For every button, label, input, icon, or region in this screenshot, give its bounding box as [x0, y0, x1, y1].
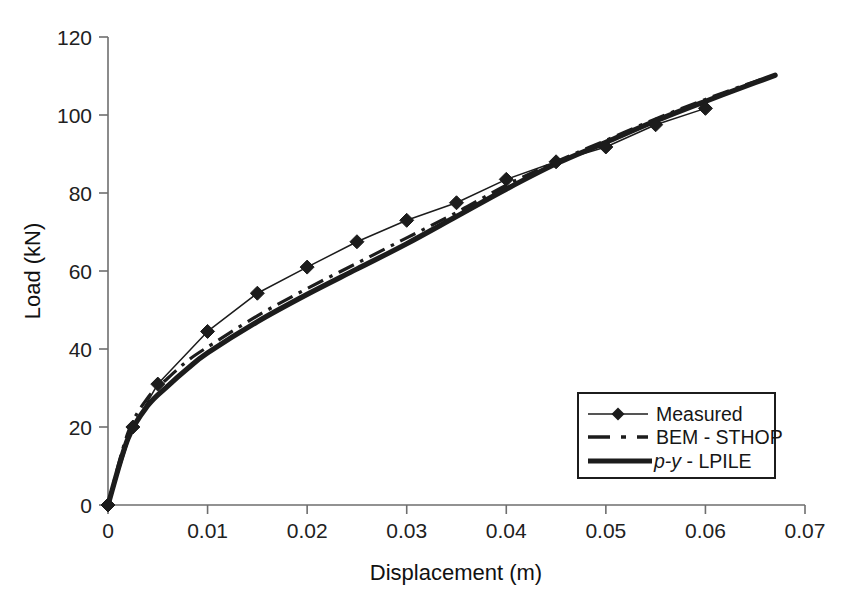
legend-label-py-italic: p-y: [653, 450, 682, 472]
x-tick-label-0.05: 0.05: [585, 519, 626, 542]
x-tick-label-0.07: 0.07: [785, 519, 826, 542]
y-axis-tick-labels: 020406080100120: [57, 26, 92, 517]
data-point-measured: [250, 286, 264, 300]
y-tick-label-40: 40: [69, 338, 92, 361]
y-tick-label-0: 0: [80, 494, 92, 517]
x-tick-label-0.02: 0.02: [287, 519, 328, 542]
data-point-measured: [400, 213, 414, 227]
data-point-measured: [300, 260, 314, 274]
x-axis-tick-labels: 00.010.020.030.040.050.060.07: [102, 519, 825, 542]
y-tick-label-20: 20: [69, 416, 92, 439]
legend-label-measured: Measured: [656, 403, 743, 425]
legend: Measured BEM - STHOP p-y - LPILE: [578, 393, 783, 478]
load-displacement-chart: 020406080100120 00.010.020.030.040.050.0…: [0, 0, 852, 615]
y-tick-label-60: 60: [69, 260, 92, 283]
data-point-measured: [350, 235, 364, 249]
legend-label-bem-sthop: BEM - STHOP: [656, 426, 783, 448]
x-tick-label-0.01: 0.01: [187, 519, 228, 542]
data-point-measured: [450, 196, 464, 210]
chart-figure: 020406080100120 00.010.020.030.040.050.0…: [0, 0, 852, 615]
legend-label-py-rest: - LPILE: [681, 450, 751, 472]
y-tick-label-120: 120: [57, 26, 92, 49]
y-axis-ticks: [99, 37, 108, 505]
y-tick-label-80: 80: [69, 182, 92, 205]
data-point-measured: [101, 498, 115, 512]
x-axis-title: Displacement (m): [370, 560, 542, 585]
x-tick-label-0.04: 0.04: [486, 519, 527, 542]
x-tick-label-0.03: 0.03: [386, 519, 427, 542]
y-tick-label-100: 100: [57, 104, 92, 127]
legend-label-py-lpile: p-y - LPILE: [653, 450, 752, 472]
x-axis-ticks: [108, 505, 805, 514]
y-axis-title: Load (kN): [20, 223, 45, 320]
x-tick-label-0: 0: [102, 519, 114, 542]
x-tick-label-0.06: 0.06: [685, 519, 726, 542]
